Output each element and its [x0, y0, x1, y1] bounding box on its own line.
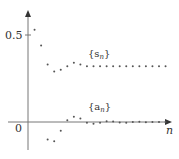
data-point	[145, 121, 147, 123]
data-point	[138, 65, 140, 67]
data-point	[112, 65, 114, 67]
data-point	[145, 65, 147, 67]
data-point	[73, 62, 75, 64]
data-point	[125, 65, 127, 67]
data-point	[93, 65, 95, 67]
data-point	[66, 119, 68, 121]
data-point	[34, 29, 36, 31]
data-point	[60, 130, 62, 132]
data-point	[112, 120, 114, 122]
data-point	[86, 65, 88, 67]
data-point	[99, 65, 101, 67]
data-point	[47, 64, 49, 66]
data-point	[106, 120, 108, 122]
data-point	[151, 121, 153, 123]
data-point	[53, 140, 55, 142]
legend-label-a-n: {an}	[88, 101, 111, 114]
data-point	[125, 122, 127, 124]
data-point	[40, 44, 42, 46]
data-point	[158, 121, 160, 123]
data-point	[165, 65, 167, 67]
data-point	[119, 65, 121, 67]
axes	[8, 10, 172, 150]
data-point	[93, 123, 95, 125]
y-tick-label-0: 0	[15, 122, 22, 135]
data-point	[73, 116, 75, 118]
data-point	[106, 65, 108, 67]
data-point	[151, 65, 153, 67]
data-point	[132, 65, 134, 67]
chart: 0.5 0 n {sn} {an}	[0, 0, 179, 159]
y-axis-arrow-icon	[25, 10, 31, 17]
data-point	[53, 71, 55, 73]
data-point	[158, 65, 160, 67]
data-point	[79, 64, 81, 66]
data-point	[119, 122, 121, 124]
data-point	[66, 65, 68, 67]
data-point	[60, 69, 62, 71]
series-s-n	[34, 29, 167, 73]
data-point	[132, 121, 134, 123]
data-point	[165, 121, 167, 123]
series-a-n	[47, 116, 167, 142]
legend-label-s-n: {sn}	[88, 48, 110, 61]
x-axis-label: n	[166, 124, 173, 137]
data-point	[79, 118, 81, 120]
data-point	[86, 122, 88, 124]
data-point	[99, 122, 101, 124]
data-point	[138, 121, 140, 123]
y-tick-label-0.5: 0.5	[5, 29, 23, 42]
data-point	[47, 138, 49, 140]
